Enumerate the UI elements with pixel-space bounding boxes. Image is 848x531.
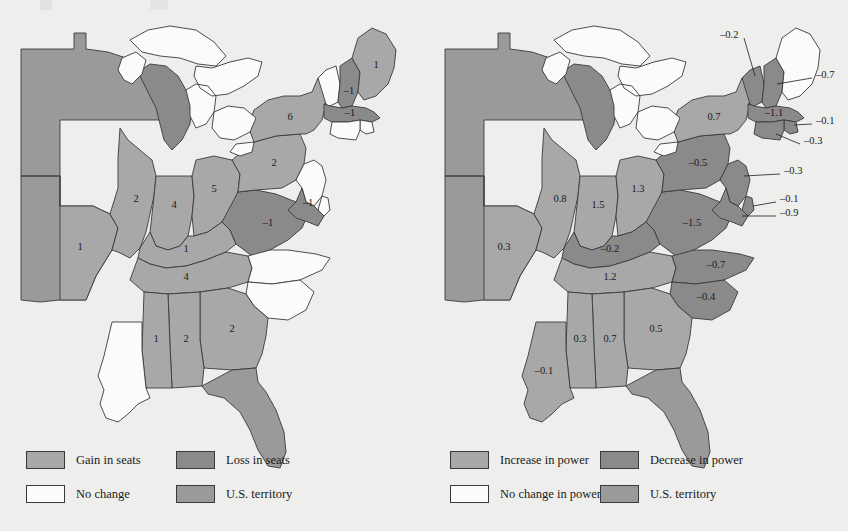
value-label-va: –1	[262, 217, 274, 228]
legend-item-decrease: Decrease in power	[600, 451, 830, 469]
state-new-york[interactable]	[248, 78, 326, 142]
legend-item-nochange-power: No change in power	[450, 485, 600, 503]
value-label-mo: 0.3	[497, 241, 510, 252]
value-label-md: –0.9	[779, 207, 798, 218]
value-label-oh: 1.3	[631, 183, 644, 194]
value-label-sc: –0.4	[696, 291, 716, 302]
state-pennsylvania[interactable]	[232, 134, 306, 192]
value-label-ms: 0.3	[573, 333, 586, 344]
value-label-in: 4	[171, 199, 177, 210]
leader-line-de	[753, 202, 776, 206]
value-label-nj: –0.3	[783, 165, 802, 176]
legend-swatch-nochange-icon	[26, 485, 65, 503]
map-panel-seats: 1–1–162–1–1221415421 Gain in seats Loss …	[0, 0, 424, 531]
map-panel-power: –0.2–0.7–1.1–0.1–0.30.7–0.3–0.5–0.1–0.9–…	[424, 0, 848, 531]
state-rhode-island[interactable]	[784, 120, 798, 134]
legend-label-increase: Increase in power	[500, 453, 589, 468]
legend-label-nochange-power: No change in power	[500, 487, 601, 502]
legend-swatch-decrease-icon	[600, 451, 639, 469]
legend-item-increase: Increase in power	[450, 451, 600, 469]
legend-seats: Gain in seats Loss in seats No change U.…	[26, 451, 406, 503]
value-label-va: –1.5	[682, 217, 701, 228]
legend-swatch-territory-power-icon	[600, 485, 639, 503]
legend-label-territory-power: U.S. territory	[650, 487, 716, 502]
value-label-al: 0.7	[603, 333, 616, 344]
legend-label-territory: U.S. territory	[226, 487, 292, 502]
map-seats: 1–1–162–1–1221415421	[0, 0, 424, 440]
value-label-il: 2	[133, 193, 138, 204]
state-connecticut[interactable]	[330, 120, 360, 140]
legend-power: Increase in power Decrease in power No c…	[450, 451, 830, 503]
value-label-il: 0.8	[553, 193, 566, 204]
two-map-figure: 1–1–162–1–1221415421 Gain in seats Loss …	[0, 0, 848, 531]
value-label-ga: 0.5	[649, 323, 662, 334]
legend-label-loss: Loss in seats	[226, 453, 290, 468]
value-label-nh: –1	[343, 85, 355, 96]
value-label-ma: –1.1	[764, 107, 783, 118]
legend-swatch-gain-icon	[26, 451, 65, 469]
legend-label-nochange: No change	[76, 487, 130, 502]
legend-swatch-territory-icon	[176, 485, 215, 503]
value-label-tn: 4	[183, 271, 189, 282]
value-label-me: 1	[373, 59, 378, 70]
value-label-ri: –0.1	[815, 115, 834, 126]
value-label-ny: 6	[287, 111, 292, 122]
legend-item-territory: U.S. territory	[176, 485, 406, 503]
legend-item-territory-power: U.S. territory	[600, 485, 830, 503]
value-label-ky: 1	[183, 243, 188, 254]
value-label-ga: 2	[229, 323, 234, 334]
value-label-de: –0.1	[779, 193, 798, 204]
legend-item-gain: Gain in seats	[26, 451, 176, 469]
state-new-york[interactable]	[672, 78, 750, 142]
legend-swatch-loss-icon	[176, 451, 215, 469]
state-rhode-island[interactable]	[360, 120, 374, 134]
value-label-ny: 0.7	[707, 111, 720, 122]
legend-swatch-increase-icon	[450, 451, 489, 469]
value-label-tn: 1.2	[603, 271, 616, 282]
value-label-mo: 1	[77, 241, 82, 252]
state-maine[interactable]	[776, 28, 820, 100]
value-label-ms: 1	[153, 333, 158, 344]
state-connecticut[interactable]	[754, 120, 784, 140]
value-label-al: 2	[183, 333, 188, 344]
value-label-ma: –1	[344, 107, 356, 118]
state-north-carolina[interactable]	[248, 250, 330, 284]
value-label-pa: 2	[271, 157, 276, 168]
value-label-ky: –0.2	[600, 243, 619, 254]
legend-swatch-nochange-power-icon	[450, 485, 489, 503]
value-label-ct: –0.3	[803, 135, 822, 146]
value-label-nh: –0.7	[815, 69, 834, 80]
value-label-nc: –0.7	[706, 259, 725, 270]
legend-label-gain: Gain in seats	[76, 453, 141, 468]
legend-item-nochange: No change	[26, 485, 176, 503]
value-label-pa: –0.5	[688, 157, 707, 168]
state-louisiana[interactable]	[98, 322, 150, 422]
leader-line-nj	[744, 174, 780, 176]
value-label-md: –1	[302, 197, 314, 208]
value-label-oh: 5	[211, 183, 216, 194]
value-label-in: 1.5	[591, 199, 604, 210]
value-label-vt: –0.2	[719, 29, 738, 40]
legend-item-loss: Loss in seats	[176, 451, 406, 469]
state-missouri[interactable]	[60, 176, 118, 300]
value-label-la: –0.1	[534, 365, 553, 376]
map-power: –0.2–0.7–1.1–0.1–0.30.7–0.3–0.5–0.1–0.9–…	[424, 0, 848, 440]
state-missouri[interactable]	[484, 176, 542, 300]
legend-label-decrease: Decrease in power	[650, 453, 743, 468]
